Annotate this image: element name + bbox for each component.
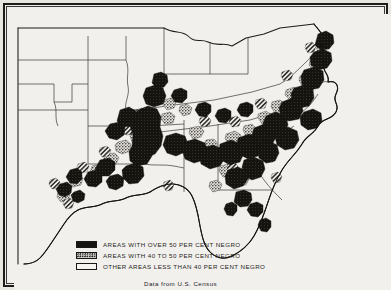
legend-label-under40: OTHER AREAS LESS THAN 40 PER CENT NEGRO <box>103 262 265 271</box>
map-figure: AREAS WITH OVER 50 PER CENT NEGRO AREAS … <box>0 0 391 290</box>
map-legend: AREAS WITH OVER 50 PER CENT NEGRO AREAS … <box>76 239 306 272</box>
map-source-credit: Data from U.S. Census <box>144 279 217 288</box>
legend-swatch-over50-icon <box>76 241 97 249</box>
legend-swatch-40to50-icon <box>76 252 97 260</box>
legend-item-over50: AREAS WITH OVER 50 PER CENT NEGRO <box>76 239 306 250</box>
figure-inner-border: AREAS WITH OVER 50 PER CENT NEGRO AREAS … <box>6 6 385 284</box>
legend-item-under40: OTHER AREAS LESS THAN 40 PER CENT NEGRO <box>76 261 306 272</box>
legend-swatch-under40-icon <box>76 263 97 271</box>
legend-label-40to50: AREAS WITH 40 TO 50 PER CENT NEGRO <box>103 251 240 260</box>
legend-label-over50: AREAS WITH OVER 50 PER CENT NEGRO <box>103 240 241 249</box>
map-canvas: AREAS WITH OVER 50 PER CENT NEGRO AREAS … <box>14 14 391 290</box>
legend-item-40to50: AREAS WITH 40 TO 50 PER CENT NEGRO <box>76 250 306 261</box>
